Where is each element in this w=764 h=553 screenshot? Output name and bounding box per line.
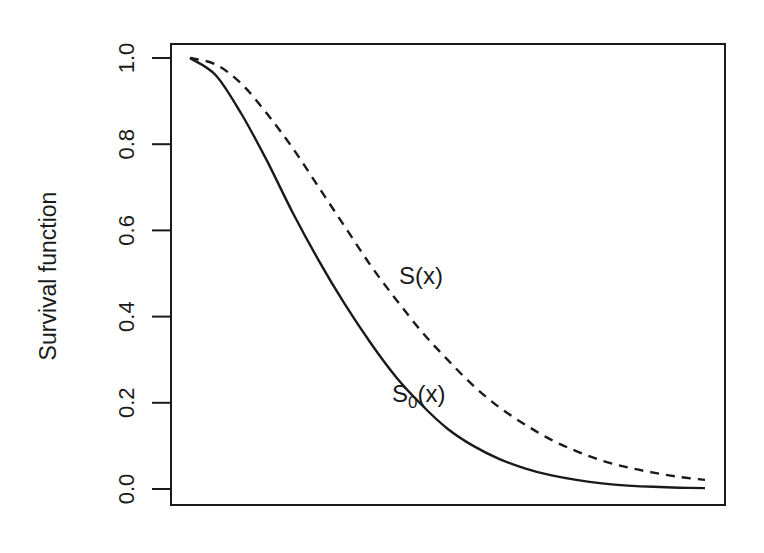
plot-frame — [171, 44, 725, 505]
label-s0-subscript: 0 — [408, 393, 417, 412]
y-tick-label: 0.4 — [114, 301, 139, 332]
y-tick-label: 0.8 — [114, 129, 139, 160]
y-tick-label: 0.2 — [114, 388, 139, 419]
label-s0-main: S — [392, 380, 408, 407]
label-s0-suffix: (x) — [417, 380, 445, 407]
y-axis-title: Survival function — [35, 192, 61, 361]
label-s-x: S(x) — [399, 262, 443, 289]
label-s0-x: S0(x) — [392, 380, 445, 412]
curve-s0-solid — [190, 58, 705, 488]
survival-chart: 0.00.20.40.60.81.0 Survival function S(x… — [0, 0, 764, 553]
y-tick-label: 0.0 — [114, 474, 139, 505]
y-tick-label: 1.0 — [114, 43, 139, 74]
y-tick-label: 0.6 — [114, 215, 139, 246]
y-axis: 0.00.20.40.60.81.0 — [114, 43, 171, 505]
curve-s-dashed — [190, 58, 705, 480]
